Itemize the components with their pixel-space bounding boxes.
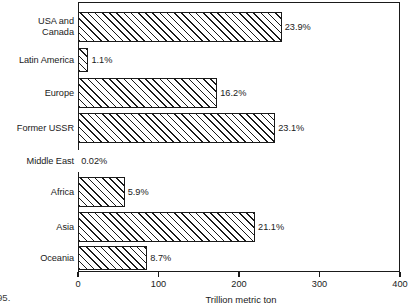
x-tick-mark <box>319 272 320 277</box>
bar-value-asia: 21.1% <box>258 222 284 233</box>
category-label-usa-and-canada: USA and Canada <box>0 16 74 38</box>
bar-value-oceania: 8.7% <box>150 253 171 264</box>
bar-value-africa: 5.9% <box>128 187 149 198</box>
category-label-asia: Asia <box>0 222 74 233</box>
bar-oceania <box>78 246 147 270</box>
x-tick-label: 400 <box>392 279 407 290</box>
x-axis-title: Trillion metric ton <box>0 294 414 305</box>
x-axis-title-text: Trillion metric ton <box>205 294 276 305</box>
bar-value-europe: 16.2% <box>220 88 246 99</box>
category-label-oceania: Oceania <box>0 253 74 264</box>
x-tick-label: 100 <box>151 279 166 290</box>
bar-value-former-ussr: 23.1% <box>278 123 304 134</box>
x-tick-mark <box>158 272 159 277</box>
x-tick-label: 200 <box>231 279 246 290</box>
bar-latin-america <box>78 48 88 72</box>
category-label-latin-america: Latin America <box>0 55 74 66</box>
category-label-europe: Europe <box>0 88 74 99</box>
x-tick-label: 0 <box>75 279 80 290</box>
bar-value-latin-america: 1.1% <box>91 55 112 66</box>
x-tick-mark <box>77 272 78 277</box>
x-tick-mark <box>238 272 239 277</box>
bar-chart-figure: USA and Canada 23.9% Latin America 1.1% … <box>0 0 414 308</box>
x-tick-label: 300 <box>312 279 327 290</box>
bar-africa <box>78 177 125 207</box>
category-label-former-ussr: Former USSR <box>0 123 74 134</box>
bar-usa-and-canada <box>78 12 282 42</box>
bar-value-middle-east: 0.02% <box>81 156 107 167</box>
x-tick-mark <box>399 272 400 277</box>
category-label-africa: Africa <box>0 187 74 198</box>
page-footnote-artifact: 95. <box>0 292 10 303</box>
bar-asia <box>78 212 255 242</box>
category-label-middle-east: Middle East <box>0 156 74 167</box>
bar-value-usa-and-canada: 23.9% <box>285 22 311 33</box>
bar-europe <box>78 78 217 108</box>
bar-former-ussr <box>78 113 275 143</box>
